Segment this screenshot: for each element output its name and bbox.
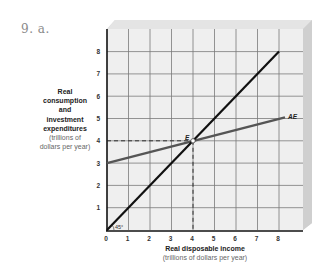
y-tick: 4 xyxy=(96,137,100,144)
x-label-title: Real disposable income xyxy=(160,244,250,253)
x-label-unit: (trillions of dollars per year) xyxy=(160,253,250,262)
ae-label: AE xyxy=(287,113,298,120)
x-tick: 1 xyxy=(126,235,130,242)
y-tick: 6 xyxy=(96,93,100,100)
x-tick: 5 xyxy=(212,235,216,242)
y-tick: 2 xyxy=(96,182,100,189)
x-tick: 7 xyxy=(255,235,259,242)
x-tick: 4 xyxy=(190,235,194,242)
x-tick: 0 xyxy=(104,235,108,242)
equilibrium-label: E xyxy=(185,134,190,141)
x-tick: 6 xyxy=(233,235,237,242)
y-tick: 7 xyxy=(96,70,100,77)
x-axis-label: Real disposable income (trillions of dol… xyxy=(160,244,250,262)
equilibrium-point xyxy=(191,139,195,143)
x-tick-labels: 0 1 2 3 4 5 6 7 8 xyxy=(104,235,280,242)
chart-canvas: 1 2 3 4 5 6 7 8 0 1 2 3 4 5 6 7 8 E AE 4… xyxy=(0,0,322,264)
angle-label: 45° xyxy=(115,224,123,230)
y-tick: 3 xyxy=(96,160,100,167)
x-tick: 3 xyxy=(169,235,173,242)
y-tick: 5 xyxy=(96,115,100,122)
y-tick: 1 xyxy=(96,204,100,211)
y-tick-labels: 1 2 3 4 5 6 7 8 xyxy=(96,48,100,211)
x-tick: 8 xyxy=(276,235,280,242)
x-tick: 2 xyxy=(147,235,151,242)
y-tick: 8 xyxy=(96,48,100,55)
